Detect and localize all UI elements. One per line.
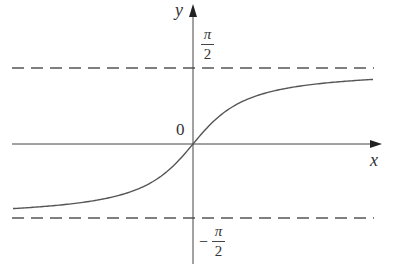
- denominator: 2: [215, 244, 223, 259]
- x-axis-arrow-icon: [370, 140, 382, 148]
- y-axis-label: y: [175, 0, 183, 21]
- minus-sign: −: [199, 233, 208, 251]
- denominator: 2: [204, 47, 212, 62]
- x-axis-label: x: [370, 150, 378, 171]
- fraction-bar: [212, 241, 225, 242]
- origin-label: 0: [176, 120, 185, 140]
- neg-pi-over-2-label: π 2: [212, 224, 225, 259]
- fraction-bar: [201, 44, 214, 45]
- pi-numerator: π: [204, 27, 212, 42]
- y-axis-arrow-icon: [189, 4, 197, 17]
- pi-over-2-label: π 2: [201, 27, 214, 62]
- pi-numerator: π: [215, 224, 223, 239]
- plot-canvas: [0, 0, 397, 264]
